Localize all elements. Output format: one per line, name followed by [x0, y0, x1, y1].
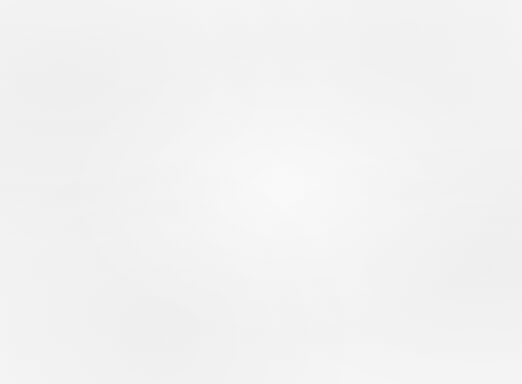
x-category-label-selection: Selection [315, 241, 370, 296]
plot-area [78, 47, 500, 233]
x-category-label-matching: Matching [195, 241, 250, 296]
line-swatch-icon [225, 21, 249, 27]
x-category-label-distribution: Distribution [243, 241, 310, 308]
y-tick-label-3: 3 [63, 38, 72, 56]
legend-label-pt-66: PT 66 [169, 16, 207, 32]
legend-item-average: 2012-2016 Average [225, 16, 380, 32]
line-series-2012-2016-average [78, 47, 500, 233]
chart-container: PT 66 2012-2016 Average 3 2 1 0 Strict S… [0, 0, 522, 384]
y-axis-tick-labels: 3 2 1 0 [48, 47, 72, 233]
x-category-label-hybrid: Hybrid [449, 241, 492, 284]
legend-item-pt-66: PT 66 [142, 16, 207, 32]
bar-swatch-icon [142, 19, 164, 30]
chart-legend: PT 66 2012-2016 Average [0, 16, 522, 32]
y-tick-label-2: 2 [63, 100, 72, 118]
y-tick-label-1: 1 [63, 162, 72, 180]
legend-label-average: 2012-2016 Average [254, 16, 380, 32]
x-axis-category-labels: Strict SequencingLoose SequencingMatchin… [0, 233, 522, 343]
